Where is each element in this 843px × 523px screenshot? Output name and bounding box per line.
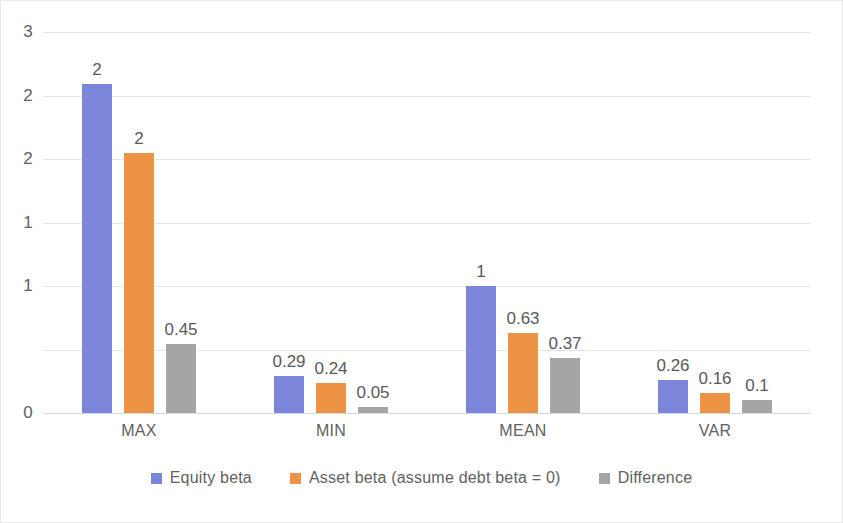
bar-value-label: 0.1 bbox=[745, 377, 769, 394]
legend-swatch-icon bbox=[151, 473, 162, 484]
y-axis-tick-label: 0 bbox=[23, 403, 33, 423]
y-axis-tick-label: 3 bbox=[23, 22, 33, 42]
legend-label: Asset beta (assume debt beta = 0) bbox=[309, 469, 561, 487]
y-axis-tick-label: 1 bbox=[23, 276, 33, 296]
bar-value-label: 0.45 bbox=[164, 321, 197, 338]
bar[interactable] bbox=[466, 286, 496, 413]
y-axis-tick-label: 1 bbox=[23, 213, 33, 233]
bar-column: 0.26 bbox=[658, 32, 688, 413]
bar-value-label: 2 bbox=[92, 61, 101, 78]
x-axis-tick-label: MEAN bbox=[427, 414, 619, 448]
bar-column: 1 bbox=[466, 32, 496, 413]
bar-group-bars: 220.45 bbox=[43, 32, 235, 413]
bar-column: 2 bbox=[124, 32, 154, 413]
bar-column: 0.29 bbox=[274, 32, 304, 413]
bar[interactable] bbox=[658, 380, 688, 413]
x-axis: MAXMINMEANVAR bbox=[43, 414, 811, 448]
bar[interactable] bbox=[742, 400, 772, 413]
bar-group-bars: 0.260.160.1 bbox=[619, 32, 811, 413]
chart-legend: Equity betaAsset beta (assume debt beta … bbox=[1, 469, 842, 487]
legend-swatch-icon bbox=[599, 473, 610, 484]
bar-value-label: 0.63 bbox=[506, 310, 539, 327]
x-axis-tick-label: MAX bbox=[43, 414, 235, 448]
bar-column: 0.1 bbox=[742, 32, 772, 413]
bar-value-label: 0.29 bbox=[272, 353, 305, 370]
bar-value-label: 0.26 bbox=[656, 357, 689, 374]
legend-label: Difference bbox=[618, 469, 693, 487]
bar[interactable] bbox=[82, 84, 112, 413]
y-axis-tick-label: 2 bbox=[23, 149, 33, 169]
bar[interactable] bbox=[700, 393, 730, 413]
bar-column: 0.37 bbox=[550, 32, 580, 413]
x-axis-tick-label: MIN bbox=[235, 414, 427, 448]
bar[interactable] bbox=[124, 153, 154, 413]
bar[interactable] bbox=[316, 383, 346, 413]
bar[interactable] bbox=[358, 407, 388, 413]
bar-column: 0.16 bbox=[700, 32, 730, 413]
legend-swatch-icon bbox=[290, 473, 301, 484]
bar[interactable] bbox=[274, 376, 304, 413]
bar-column: 0.63 bbox=[508, 32, 538, 413]
bar-value-label: 0.16 bbox=[698, 370, 731, 387]
bar-groups: 220.450.290.240.0510.630.370.260.160.1 bbox=[43, 32, 811, 413]
bar-value-label: 0.24 bbox=[314, 360, 347, 377]
bar-value-label: 1 bbox=[476, 263, 485, 280]
bar[interactable] bbox=[166, 344, 196, 413]
bar-group: 10.630.37 bbox=[427, 32, 619, 413]
legend-item[interactable]: Equity beta bbox=[151, 469, 252, 487]
legend-item[interactable]: Difference bbox=[599, 469, 693, 487]
bar-group-bars: 0.290.240.05 bbox=[235, 32, 427, 413]
bar-value-label: 0.37 bbox=[548, 335, 581, 352]
bar-column: 0.05 bbox=[358, 32, 388, 413]
legend-item[interactable]: Asset beta (assume debt beta = 0) bbox=[290, 469, 561, 487]
bar-column: 0.45 bbox=[166, 32, 196, 413]
y-axis-tick-label: 2 bbox=[23, 86, 33, 106]
bar-group: 0.290.240.05 bbox=[235, 32, 427, 413]
legend-label: Equity beta bbox=[170, 469, 252, 487]
bar-value-label: 0.05 bbox=[356, 384, 389, 401]
bar-column: 2 bbox=[82, 32, 112, 413]
y-axis: 322110 bbox=[1, 1, 43, 413]
bar-group: 220.45 bbox=[43, 32, 235, 413]
bar-group: 0.260.160.1 bbox=[619, 32, 811, 413]
bar[interactable] bbox=[550, 358, 580, 413]
x-axis-tick-label: VAR bbox=[619, 414, 811, 448]
bar-value-label: 2 bbox=[134, 130, 143, 147]
bar-group-bars: 10.630.37 bbox=[427, 32, 619, 413]
bar-column: 0.24 bbox=[316, 32, 346, 413]
bar[interactable] bbox=[508, 333, 538, 413]
bar-chart: 322110 220.450.290.240.0510.630.370.260.… bbox=[0, 0, 843, 523]
